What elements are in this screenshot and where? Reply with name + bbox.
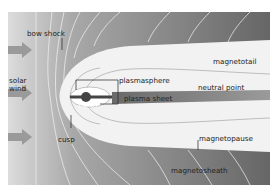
- magnetosphere-diagram: bow shock solar wind plasmasphere Earth …: [0, 0, 274, 192]
- label-magnetopause: magnetopause: [199, 135, 253, 142]
- label-magnetotail: magnetotail: [213, 58, 256, 65]
- label-plasma-sheet: plasma sheet: [124, 95, 172, 102]
- label-plasmasphere: plasmasphere: [119, 77, 170, 84]
- label-wind: wind: [9, 85, 26, 92]
- label-magnetosheath: magnetosheath: [171, 167, 228, 174]
- label-cusp: cusp: [58, 136, 75, 143]
- label-earth: Earth: [78, 101, 97, 108]
- label-bow-shock: bow shock: [27, 30, 65, 37]
- label-neutral-point: neutral point: [198, 84, 244, 91]
